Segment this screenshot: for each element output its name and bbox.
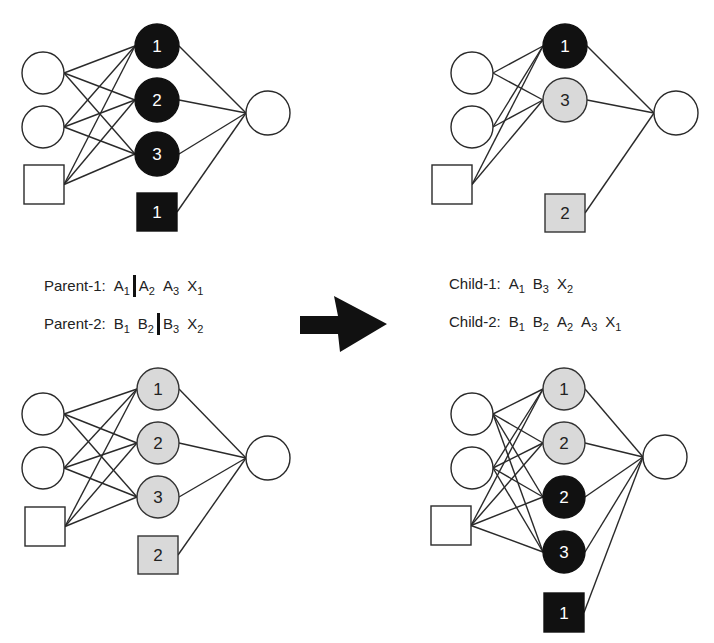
parent-1-chromosome: Parent-1:A1A2A3X1 (44, 275, 203, 297)
node-label: 3 (560, 91, 569, 110)
connection-edge (64, 468, 137, 497)
connection-edge (179, 100, 246, 113)
node-label: 2 (559, 434, 568, 453)
connection-edge (584, 457, 643, 613)
connection-edge (587, 46, 654, 113)
node-label: 1 (152, 203, 161, 222)
connection-edge (493, 468, 543, 552)
node-label: 1 (153, 380, 162, 399)
child-2-label: Child-2: (449, 313, 501, 330)
connection-edge (179, 443, 246, 458)
gene: A1 (114, 277, 130, 297)
parent-2-chromosome: Parent-2:B1B2B3X2 (44, 313, 203, 335)
child-1-chromosome: Child-1:A1B3X2 (449, 275, 573, 295)
connection-edge (179, 458, 246, 497)
connection-edge (493, 414, 543, 552)
crossover-point (133, 275, 136, 297)
connection-edge (65, 497, 137, 527)
input-bias-node (431, 506, 471, 545)
node-label: 2 (153, 546, 162, 565)
node-label: 2 (560, 204, 569, 223)
parent-2-label: Parent-2: (44, 315, 106, 332)
connection-edge (585, 457, 643, 497)
connection-edge (585, 443, 643, 457)
connection-edge (585, 389, 643, 457)
input-node (22, 106, 64, 148)
gene: B3 (533, 275, 549, 295)
connection-edge (178, 458, 246, 555)
gene: X1 (187, 277, 203, 297)
gene: X2 (187, 315, 203, 335)
input-node (451, 393, 493, 435)
child-2-chromosome: Child-2:B1B2A2A3X1 (449, 313, 621, 333)
child-1-label: Child-1: (449, 275, 501, 292)
parent-1-label: Parent-1: (44, 277, 106, 294)
output-node (654, 91, 698, 135)
input-node (22, 393, 64, 435)
input-bias-node (432, 165, 472, 204)
connection-edge (64, 154, 135, 185)
gene: B3 (163, 315, 179, 335)
gene: B2 (533, 313, 549, 333)
connection-edge (64, 46, 135, 73)
input-node (451, 52, 493, 94)
node-label: 1 (152, 37, 161, 56)
gene: A3 (163, 277, 179, 297)
connection-edge (585, 457, 643, 552)
input-node (451, 106, 493, 148)
node-label: 3 (559, 543, 568, 562)
input-node (22, 52, 64, 94)
output-node (246, 91, 290, 135)
connection-edge (64, 73, 135, 100)
input-bias-node (24, 165, 64, 204)
gene: A2 (557, 313, 573, 333)
node-label: 1 (560, 37, 569, 56)
connection-edge (64, 414, 137, 443)
gene: A3 (581, 313, 597, 333)
connection-edge (587, 100, 654, 113)
input-bias-node (25, 507, 65, 546)
gene: A1 (509, 275, 525, 295)
crossover-arrow-icon (300, 296, 387, 352)
node-label: 1 (559, 604, 568, 623)
crossover-point (157, 313, 160, 335)
node-label: 1 (559, 380, 568, 399)
connection-edge (177, 113, 246, 212)
connection-edge (64, 127, 135, 154)
connection-edge (179, 46, 246, 113)
connection-edge (493, 100, 543, 127)
node-label: 3 (152, 145, 161, 164)
gene: X2 (557, 275, 573, 295)
gene: B2 (138, 315, 154, 335)
node-label: 2 (153, 434, 162, 453)
node-label: 2 (559, 488, 568, 507)
connection-edge (585, 113, 654, 213)
output-node (246, 436, 290, 480)
connection-edge (493, 414, 543, 443)
gene: X1 (605, 313, 621, 333)
gene: B1 (114, 315, 130, 335)
node-label: 2 (152, 91, 161, 110)
output-node (643, 435, 687, 479)
input-node (451, 447, 493, 489)
gene: A2 (139, 277, 155, 297)
connection-edge (179, 113, 246, 154)
connection-edge (471, 526, 543, 553)
connection-edge (179, 389, 246, 458)
input-node (22, 447, 64, 489)
node-label: 3 (153, 488, 162, 507)
gene: B1 (509, 313, 525, 333)
